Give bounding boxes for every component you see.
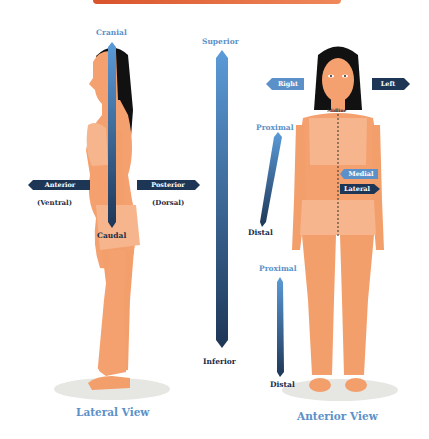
leg-proximal-label: Proximal (259, 264, 297, 273)
midline-label: Midline (327, 108, 346, 113)
lateral-view-title: Lateral View (76, 406, 149, 418)
anterior-label: Anterior (32, 180, 88, 190)
posterior-label: Posterior (140, 180, 196, 190)
ventral-label: (Ventral) (37, 198, 72, 207)
right-label: Right (272, 78, 304, 90)
left-label: Left (372, 78, 404, 90)
anterior-shadow (282, 379, 398, 401)
lateral-label: Lateral (340, 184, 374, 194)
inferior-label: Inferior (203, 357, 236, 366)
leg-distal-label: Distal (270, 380, 295, 389)
dorsal-label: (Dorsal) (152, 198, 184, 207)
anterior-view-title: Anterior View (297, 410, 378, 422)
arm-proximal-label: Proximal (256, 123, 294, 132)
cranial-label: Cranial (96, 28, 127, 37)
superior-inferior-axis (216, 50, 228, 348)
arm-proximal-distal-axis (260, 132, 282, 227)
superior-label: Superior (202, 37, 239, 46)
figures-illustration (0, 0, 429, 439)
medial-label: Medial (344, 169, 378, 179)
caudal-label: Caudal (97, 231, 126, 240)
leg-proximal-distal-axis (277, 277, 284, 377)
cranial-caudal-axis (108, 42, 116, 228)
anterior-figure (292, 47, 384, 393)
arm-distal-label: Distal (248, 228, 273, 237)
